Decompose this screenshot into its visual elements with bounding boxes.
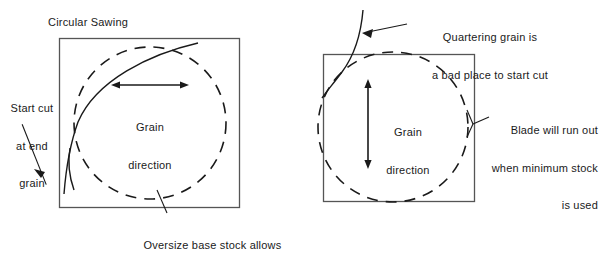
grain-direction-right-line-2: direction <box>368 164 448 177</box>
grain-direction-label-left: Grain direction <box>110 96 190 196</box>
start-cut-note-line-1: Start cut <box>2 102 62 115</box>
diagram-left: Circular Sawing Start cut at end grain G… <box>0 0 300 260</box>
blade-run-out-note-line-2: when minimum stock <box>480 162 598 175</box>
oversize-stock-note: Oversize base stock allows continuous cu… <box>130 214 295 260</box>
oversize-stock-note-line-1: Oversize base stock allows <box>130 239 295 252</box>
diagram-right: Quartering grain is a bad place to start… <box>300 0 600 260</box>
diagram-left-title: Circular Sawing <box>48 16 128 29</box>
start-cut-note-line-3: grain <box>2 177 62 190</box>
blade-run-out-note-line-3: is used <box>480 199 598 212</box>
quartering-grain-note-line-1: Quartering grain is <box>400 31 580 44</box>
quartering-grain-note: Quartering grain is a bad place to start… <box>400 6 580 106</box>
start-cut-note: Start cut at end grain <box>2 77 62 215</box>
grain-direction-left-line-2: direction <box>110 159 190 172</box>
grain-direction-left-line-1: Grain <box>110 121 190 134</box>
grain-direction-right-line-1: Grain <box>368 126 448 139</box>
blade-run-out-note-line-1: Blade will run out <box>480 124 598 137</box>
blade-run-out-note: Blade will run out when minimum stock is… <box>480 99 598 237</box>
grain-direction-label-right: Grain direction <box>368 101 448 201</box>
start-cut-note-line-2: at end <box>2 140 62 153</box>
quartering-grain-note-line-2: a bad place to start cut <box>400 69 580 82</box>
